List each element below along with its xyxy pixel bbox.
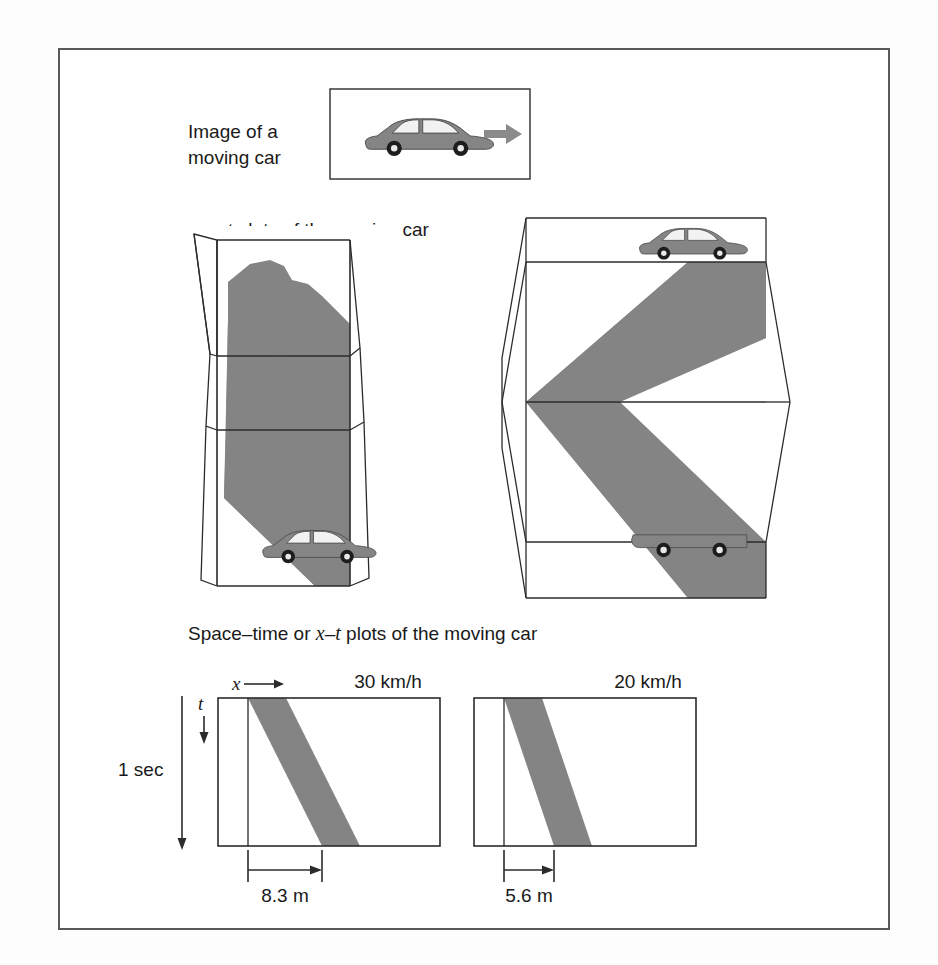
car-side-icon-right-top (639, 228, 747, 259)
car-side-icon (365, 119, 493, 156)
distance-label-0: 8.3 m (261, 885, 309, 906)
xt-panel: Space–time or x–t plots of the moving ca… (60, 610, 888, 910)
xt-plot-1: 5.6 m (474, 698, 696, 906)
xt-title: Space–time or x–t plots of the moving ca… (188, 622, 538, 644)
image-panel: Image of a moving car (60, 60, 888, 195)
xt-axis-x: x (231, 673, 284, 694)
image-caption-line1: Image of a (188, 121, 278, 142)
figure-root: Image of a moving car x–y–t plots of the… (0, 0, 938, 965)
duration-measure: 1 sec (118, 696, 187, 850)
left-volume-final (180, 226, 400, 618)
xt-axis-t-label: t (198, 693, 204, 714)
right-volume (502, 218, 790, 598)
xt-axis-x-label: x (231, 673, 241, 694)
distance-label-1: 5.6 m (505, 885, 553, 906)
xt-plot-0: 8.3 m (218, 698, 440, 906)
figure-frame: Image of a moving car x–y–t plots of the… (58, 48, 890, 930)
xyt-panel: x–y–t plots of the moving car x y t (60, 198, 888, 618)
duration-label: 1 sec (118, 759, 163, 780)
xt-title-part2: plots of the moving car (341, 623, 538, 644)
speed-label-1: 20 km/h (614, 671, 682, 692)
xt-axis-t: t (198, 693, 209, 744)
image-caption-line2: moving car (188, 147, 282, 168)
xt-title-part1: Space–time or (188, 623, 316, 644)
speed-label-0: 30 km/h (354, 671, 422, 692)
